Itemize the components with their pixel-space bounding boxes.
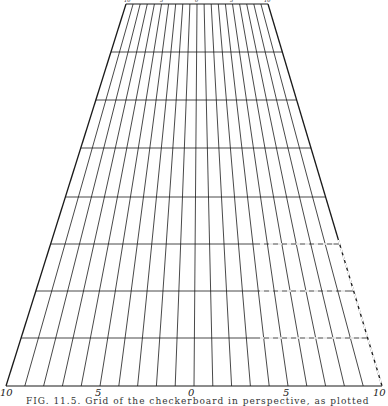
axis-label: 0 — [195, 0, 198, 3]
axis-label: 5 — [230, 0, 233, 3]
grid-vertical-line — [261, 4, 363, 386]
grid-vertical-line — [225, 4, 269, 386]
grid-vertical-line — [6, 4, 126, 386]
grid-vertical-lines — [6, 4, 382, 386]
axis-label: 10 — [0, 388, 13, 398]
figure-caption: FIG. 11.5. Grid of the checkerboard in p… — [26, 397, 370, 406]
grid-vertical-line — [62, 4, 147, 386]
grid-vertical-line — [233, 4, 289, 386]
axis-label: 5 — [160, 0, 163, 3]
grid-vertical-line — [211, 4, 231, 386]
axis-label: 10 — [264, 0, 270, 3]
grid-vertical-line — [194, 4, 197, 386]
grid-vertical-line — [100, 4, 162, 386]
grid-vertical-line — [247, 4, 326, 386]
grid-vertical-line — [25, 4, 133, 386]
axis-label: 10 — [373, 388, 386, 398]
grid-vertical-line — [204, 4, 213, 386]
grid-vertical-line — [240, 4, 307, 386]
grid-vertical-line — [175, 4, 190, 386]
grid-vertical-line — [218, 4, 250, 386]
grid-vertical-line — [254, 4, 345, 386]
axis-label: 10 — [124, 0, 130, 3]
